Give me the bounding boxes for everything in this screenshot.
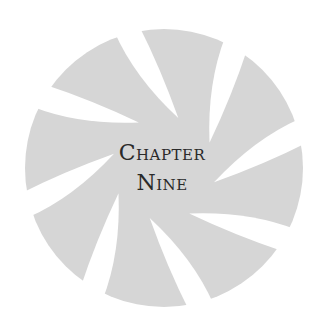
chapter-number: Nine <box>0 170 324 195</box>
chapter-label: Chapter <box>0 140 324 165</box>
emblem-disc <box>25 29 303 307</box>
